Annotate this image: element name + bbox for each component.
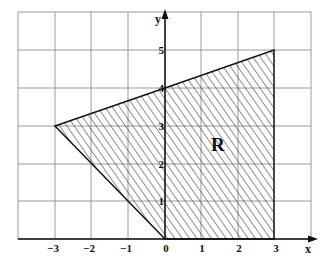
x-tick-label: −3	[47, 242, 59, 254]
x-tick-label: 3	[273, 242, 279, 254]
y-tick-label: 4	[159, 82, 165, 94]
x-tick-label: 0	[163, 242, 169, 254]
x-tick-label: 2	[236, 242, 242, 254]
x-tick-label: −1	[120, 242, 132, 254]
x-tick-label: −2	[83, 242, 95, 254]
y-axis-label: y	[155, 12, 161, 26]
y-tick-label: 5	[159, 44, 165, 56]
y-tick-label: 3	[159, 120, 165, 132]
y-tick-label: 1	[159, 195, 165, 207]
x-tick-label: 1	[199, 242, 205, 254]
region-label: R	[211, 134, 225, 155]
x-axis-label: x	[305, 242, 311, 256]
y-axis-arrow-icon	[162, 9, 169, 19]
x-tick-labels: −3 −2 −1 0 1 2 3	[47, 242, 279, 254]
y-tick-label: 2	[159, 158, 165, 170]
coordinate-plane-diagram: x y −3 −2 −1 0 1 2 3 1 2 3 4 5 R	[0, 0, 329, 266]
